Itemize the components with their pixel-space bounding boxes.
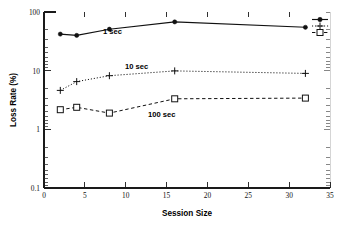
data-point-marker (74, 104, 80, 110)
x-axis-title: Session Size (162, 209, 213, 218)
x-tick-label-15: 15 (163, 191, 171, 200)
x-top-ticks (85, 12, 289, 17)
loss-rate-line-chart: 100 10 1 0.1 0 5 10 15 20 25 30 35 Sessi… (0, 0, 342, 227)
right-edge-minor-ticks (324, 12, 330, 185)
y-axis-title: Loss Rate (%) (9, 73, 18, 127)
data-point-marker (57, 87, 64, 94)
x-tick-label-25: 25 (245, 191, 253, 200)
y-tick-label-100: 100 (29, 8, 40, 17)
series-100-sec-line (60, 98, 305, 113)
x-tick-label-20: 20 (204, 191, 212, 200)
chart-figure: 100 10 1 0.1 0 5 10 15 20 25 30 35 Sessi… (0, 0, 342, 227)
data-point-marker (173, 20, 177, 24)
series-label-1-sec: 1 sec (103, 27, 122, 36)
data-point-marker (106, 72, 113, 79)
series-label-10-sec: 10 sec (125, 62, 148, 71)
series-1-sec (58, 20, 307, 38)
data-point-marker (303, 25, 307, 29)
series-10-sec (57, 67, 309, 94)
series-label-100-sec: 100 sec (148, 110, 175, 119)
data-point-marker (172, 96, 178, 102)
data-point-marker (302, 70, 309, 77)
data-point-marker (106, 110, 112, 116)
data-point-marker (75, 33, 79, 37)
data-point-marker (171, 67, 178, 74)
series-100-sec (57, 95, 308, 116)
x-tick-label-35: 35 (326, 191, 334, 200)
key-marker-10-sec (317, 23, 324, 30)
y-minor-ticks (44, 30, 48, 186)
y-tick-label-1: 1 (36, 125, 40, 134)
data-point-marker (73, 78, 80, 85)
y-tick-label-0-1: 0.1 (31, 184, 41, 193)
x-tick-label-0: 0 (42, 191, 46, 200)
x-tick-label-10: 10 (122, 191, 130, 200)
plot-axes (44, 12, 330, 188)
marker-key-cluster (312, 17, 330, 35)
data-point-marker (57, 107, 63, 113)
data-point-marker (302, 95, 308, 101)
key-marker-100-sec (317, 30, 323, 36)
y-tick-label-10: 10 (33, 67, 41, 76)
x-tick-label-30: 30 (285, 191, 293, 200)
key-marker-1-sec (318, 17, 322, 21)
x-tick-label-5: 5 (83, 191, 87, 200)
data-point-marker (58, 32, 62, 36)
y-major-ticks (44, 12, 51, 188)
x-major-ticks (44, 182, 330, 188)
series-10-sec-line (60, 71, 305, 91)
series-1-sec-line (60, 22, 305, 36)
